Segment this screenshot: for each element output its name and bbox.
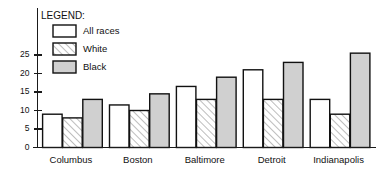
bar-baltimore-white [197, 99, 217, 147]
legend-swatch-hatched-box-icon [53, 43, 76, 55]
bar-indianapolis-white [330, 114, 350, 147]
x-tick-label-indianapolis: Indianapolis [313, 154, 364, 165]
legend: LEGEND:All racesWhiteBlack [41, 10, 120, 73]
bar-baltimore-all-races [176, 86, 196, 147]
bar-indianapolis-black [350, 53, 370, 147]
y-tick-label-5: 5 [25, 123, 30, 133]
y-tick-label-10: 10 [20, 105, 30, 115]
legend-label-white: White [83, 43, 107, 54]
legend-title: LEGEND: [41, 10, 85, 21]
bar-columbus-black [83, 99, 103, 147]
bar-detroit-black [284, 62, 304, 147]
bar-columbus-all-races [43, 114, 63, 147]
x-tick-label-columbus: Columbus [50, 154, 93, 165]
chart-canvas: 0510152025 ColumbusBostonBaltimoreDetroi… [0, 0, 386, 177]
bar-boston-all-races [110, 105, 130, 148]
bar-indianapolis-all-races [310, 99, 330, 147]
x-tick-label-baltimore: Baltimore [185, 154, 225, 165]
legend-label-all-races: All races [83, 25, 120, 36]
x-tick-label-boston: Boston [123, 154, 153, 165]
bar-boston-white [130, 111, 150, 148]
y-tick-label-20: 20 [20, 68, 30, 78]
bar-baltimore-black [217, 77, 237, 147]
x-axis-labels: ColumbusBostonBaltimoreDetroitIndianapol… [50, 154, 365, 165]
legend-label-black: Black [83, 61, 106, 72]
bar-boston-black [150, 94, 170, 148]
bar-detroit-all-races [243, 70, 262, 148]
y-tick-label-25: 25 [20, 49, 30, 59]
bar-detroit-white [263, 99, 283, 147]
y-tick-label-0: 0 [25, 142, 30, 152]
legend-swatch-white-box-icon [53, 25, 76, 37]
y-axis-labels: 0510152025 [20, 49, 30, 152]
y-tick-label-15: 15 [20, 86, 30, 96]
bar-chart: 0510152025 ColumbusBostonBaltimoreDetroi… [0, 0, 386, 177]
bar-columbus-white [63, 118, 82, 148]
legend-swatch-gray-box-icon [53, 61, 76, 73]
x-tick-label-detroit: Detroit [258, 154, 286, 165]
